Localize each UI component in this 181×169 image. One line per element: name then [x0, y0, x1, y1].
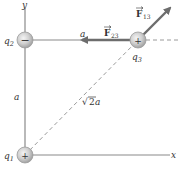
plus-sign-icon: +: [21, 151, 29, 161]
x-axis: x: [25, 150, 176, 160]
svg-text:√: √: [82, 97, 88, 107]
q3-label: q3: [132, 52, 142, 64]
charge-q3: + q3: [130, 32, 146, 64]
charge-diagram: y x − q2 + q3 + q1 a a √ 2 a F: [0, 0, 181, 169]
svg-text:a: a: [95, 97, 100, 107]
q1-label: q1: [4, 151, 14, 163]
charge-q1: + q1: [4, 147, 33, 163]
vertical-distance-label: a: [14, 92, 19, 102]
svg-text:F: F: [136, 9, 143, 19]
x-axis-label: x: [171, 150, 176, 160]
force-label-f13: F 13: [136, 7, 151, 21]
plus-sign-icon: +: [134, 36, 142, 46]
svg-text:23: 23: [111, 32, 119, 39]
svg-text:F: F: [104, 28, 111, 38]
minus-sign-icon: −: [20, 34, 29, 47]
force-label-f23: F 23: [104, 26, 119, 40]
svg-text:13: 13: [143, 13, 151, 20]
svg-text:2: 2: [89, 97, 95, 107]
diagonal-distance-label: √ 2 a: [82, 97, 100, 107]
horizontal-distance-label: a: [80, 29, 85, 39]
y-axis: y: [21, 0, 28, 155]
charge-q2: − q2: [4, 32, 33, 48]
q2-label: q2: [4, 36, 14, 48]
y-axis-label: y: [21, 0, 28, 10]
